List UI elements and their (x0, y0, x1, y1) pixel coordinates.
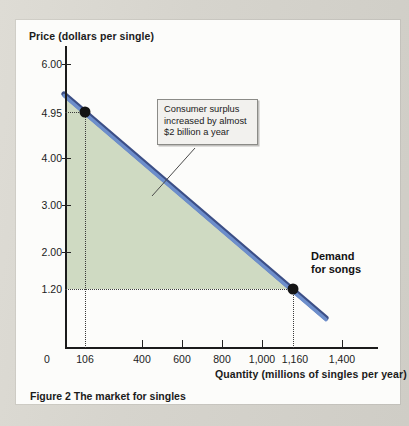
demand-curve-label-line-2: for songs (311, 263, 361, 276)
x-tick-label-600: 600 (173, 353, 191, 365)
y-axis-line (65, 46, 67, 348)
data-point-original-equilibrium[interactable] (80, 107, 91, 118)
x-tick-mark-1400 (342, 340, 343, 348)
x-tick-label-400: 400 (133, 353, 151, 365)
callout-line-2: increased by almost (164, 116, 252, 128)
y-tick-mark-400 (62, 158, 71, 159)
x-tick-label-0: 0 (44, 353, 50, 365)
x-tick-mark-400 (142, 340, 143, 348)
y-tick-label-600: 6.00 (28, 58, 62, 70)
x-tick-label-800: 800 (213, 353, 231, 365)
demand-curve-label-line-1: Demand (311, 250, 361, 263)
data-point-new-equilibrium[interactable] (288, 284, 299, 295)
guide-line-price-120 (65, 289, 293, 290)
x-tick-label-1160: 1,160 (282, 353, 308, 365)
y-tick-mark-600 (62, 64, 71, 65)
x-tick-mark-800 (222, 340, 223, 348)
y-tick-label-200: 2.00 (28, 246, 62, 258)
callout-line-3: $2 billion a year (164, 127, 252, 139)
x-tick-mark-600 (182, 340, 183, 348)
x-tick-label-106: 106 (76, 353, 94, 365)
consumer-surplus-callout: Consumer surplus increased by almost $2 … (157, 99, 258, 145)
x-tick-mark-1000 (262, 340, 263, 348)
x-tick-label-1000: 1,000 (249, 353, 275, 365)
guide-line-quantity-1160 (293, 289, 294, 348)
y-tick-label-400: 4.00 (28, 152, 62, 164)
y-tick-mark-200 (62, 252, 71, 253)
callout-leader-line (152, 148, 195, 196)
x-axis-title: Quantity (millions of singles per year) (215, 368, 407, 380)
figure-caption: Figure 2 The market for singles (30, 390, 186, 402)
chart-plot-area: Price (dollars per single) Quantity (mil… (0, 0, 409, 426)
y-tick-label-300: 3.00 (28, 199, 62, 211)
x-tick-label-1400: 1,400 (329, 353, 355, 365)
y-tick-label-120: 1.20 (28, 283, 62, 295)
guide-line-quantity-106 (85, 112, 86, 348)
y-tick-label-495: 4.95 (28, 107, 62, 119)
y-tick-mark-300 (62, 205, 71, 206)
y-axis-title: Price (dollars per single) (29, 30, 154, 42)
callout-line-1: Consumer surplus (164, 104, 252, 116)
demand-curve-label: Demand for songs (311, 250, 361, 276)
